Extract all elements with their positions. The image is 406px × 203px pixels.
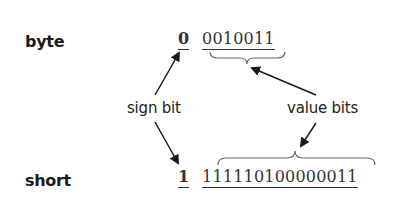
sign-bit-arrow-to-short [155,122,178,163]
byte-type-label: byte [25,32,64,51]
short-value-bits-brace [218,151,375,165]
sign-bit-arrow-to-byte [155,53,179,95]
byte-value-bits: 0010011 [202,30,275,50]
sign-bit-annotation: sign bit [127,99,181,117]
short-type-label: short [25,171,71,190]
value-bits-annotation: value bits [287,99,358,117]
short-value-bits: 111110100000011 [202,168,358,188]
short-sign-bit: 1 [178,168,189,188]
byte-sign-bit: 0 [178,30,189,50]
byte-value-bits-brace [210,52,285,64]
value-bits-arrow-to-short [301,123,316,146]
sign-extension-diagram: byte 0 0010011 sign bit value bits short… [0,0,406,203]
value-bits-arrow-to-byte [252,68,316,95]
